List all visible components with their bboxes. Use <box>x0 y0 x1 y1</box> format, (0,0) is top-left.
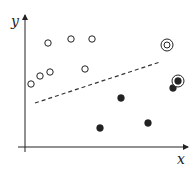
decision-boundary-line <box>35 62 160 103</box>
x-axis-label: x <box>177 151 185 167</box>
data-point <box>172 75 184 87</box>
data-point <box>82 66 88 72</box>
y-axis-label: y <box>10 13 20 29</box>
data-points <box>28 36 184 132</box>
data-point <box>145 120 152 127</box>
data-point <box>47 69 53 75</box>
data-point <box>97 125 104 132</box>
data-point <box>68 36 74 42</box>
data-point <box>37 73 43 79</box>
scatter-chart: y x <box>0 0 196 170</box>
data-point <box>118 95 125 102</box>
data-point <box>89 36 95 42</box>
data-point <box>161 39 173 51</box>
data-point <box>28 81 34 87</box>
data-point <box>45 40 51 46</box>
